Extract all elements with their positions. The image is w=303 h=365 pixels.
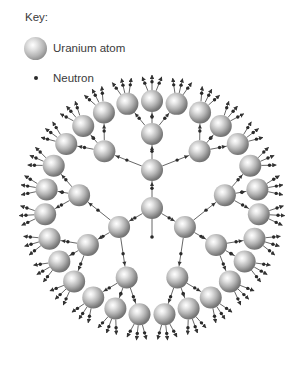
- uranium-atom: [141, 197, 163, 219]
- uranium-atom: [243, 228, 265, 250]
- uranium-atom: [34, 203, 56, 225]
- uranium-atom: [77, 234, 99, 256]
- uranium-atom: [248, 203, 270, 225]
- uranium-atom: [48, 251, 70, 273]
- uranium-atom: [214, 184, 236, 206]
- uranium-atom: [141, 159, 163, 181]
- uranium-atom: [239, 155, 261, 177]
- uranium-atom: [116, 267, 138, 289]
- uranium-atom: [68, 184, 90, 206]
- uranium-atom: [210, 115, 232, 137]
- legend-item-uranium-atom: Uranium atom: [24, 36, 125, 60]
- uranium-atom: [189, 101, 211, 123]
- uranium-atom: [153, 303, 175, 325]
- uranium-atom: [72, 115, 94, 137]
- uranium-atom: [227, 133, 249, 155]
- legend-title: Key:: [25, 11, 48, 23]
- uranium-atom: [93, 101, 115, 123]
- uranium-atom: [104, 298, 126, 320]
- uranium-atom: [39, 228, 61, 250]
- uranium-atoms: [34, 90, 270, 325]
- uranium-atom: [43, 155, 65, 177]
- uranium-atom: [246, 178, 268, 200]
- uranium-atom: [116, 93, 138, 115]
- legend-label-uranium-atom: Uranium atom: [53, 42, 125, 54]
- uranium-atom: [174, 216, 196, 238]
- uranium-atom: [82, 286, 104, 308]
- uranium-atom-icon: [24, 37, 47, 60]
- uranium-atom: [200, 286, 222, 308]
- uranium-atom: [108, 216, 130, 238]
- uranium-atom: [178, 298, 200, 320]
- uranium-atom: [63, 270, 85, 292]
- uranium-atom: [129, 303, 151, 325]
- uranium-atom: [36, 178, 58, 200]
- uranium-atom: [219, 270, 241, 292]
- legend: Key: Uranium atom Neutron: [0, 0, 140, 90]
- uranium-atom: [234, 251, 256, 273]
- uranium-atom: [141, 90, 163, 112]
- legend-item-neutron: Neutron: [24, 66, 94, 90]
- uranium-atom: [141, 123, 163, 145]
- uranium-atom: [93, 140, 115, 162]
- uranium-atom: [189, 140, 211, 162]
- uranium-atom: [205, 234, 227, 256]
- uranium-atom: [166, 267, 188, 289]
- uranium-atom: [55, 133, 77, 155]
- neutron-icon: [24, 67, 47, 90]
- uranium-atom: [166, 93, 188, 115]
- legend-label-neutron: Neutron: [53, 72, 94, 84]
